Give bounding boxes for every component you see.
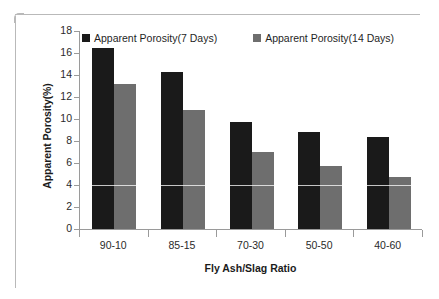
bar[interactable] bbox=[230, 122, 252, 229]
legend-swatch-icon bbox=[82, 34, 90, 42]
bar[interactable] bbox=[367, 137, 389, 229]
legend-swatch-icon bbox=[253, 34, 261, 42]
chart-legend: Apparent Porosity(7 Days) Apparent Poros… bbox=[82, 30, 394, 46]
x-axis-tick-marks bbox=[0, 230, 439, 238]
gridline-artifact bbox=[80, 185, 420, 186]
bar[interactable] bbox=[161, 72, 183, 229]
y-axis-tick-label: 14 bbox=[50, 69, 72, 80]
legend-label-14-days: Apparent Porosity(14 Days) bbox=[265, 33, 394, 44]
legend-label-7-days: Apparent Porosity(7 Days) bbox=[94, 33, 217, 44]
bar-group bbox=[92, 31, 136, 229]
y-axis-tick-label: 6 bbox=[50, 157, 72, 168]
bars-layer bbox=[79, 31, 422, 229]
y-axis-tick-label: 10 bbox=[50, 113, 72, 124]
bar[interactable] bbox=[114, 84, 136, 229]
x-axis-tick-label: 70-30 bbox=[216, 240, 285, 251]
y-axis-tick-label: 8 bbox=[50, 135, 72, 146]
bar-group bbox=[298, 31, 342, 229]
legend-item-14-days[interactable]: Apparent Porosity(14 Days) bbox=[253, 33, 394, 44]
x-axis-tick bbox=[79, 230, 80, 237]
x-axis-tick-label: 90-10 bbox=[79, 240, 148, 251]
bar[interactable] bbox=[320, 166, 342, 229]
legend-item-7-days[interactable]: Apparent Porosity(7 Days) bbox=[82, 33, 217, 44]
y-axis-tick-labels: 181614121086420 bbox=[48, 0, 72, 299]
y-axis-tick-label: 18 bbox=[50, 25, 72, 36]
x-axis-tick bbox=[148, 230, 149, 237]
bar-group bbox=[161, 31, 205, 229]
y-axis-tick-label: 12 bbox=[50, 91, 72, 102]
x-axis-tick-label: 50-50 bbox=[285, 240, 354, 251]
x-axis-tick-label: 40-60 bbox=[353, 240, 422, 251]
x-axis-tick-labels: 90-1085-1570-3050-5040-60 bbox=[79, 240, 422, 254]
bar[interactable] bbox=[92, 48, 114, 230]
bar-group bbox=[230, 31, 274, 229]
x-axis-tick bbox=[285, 230, 286, 237]
y-axis-tick-label: 4 bbox=[50, 179, 72, 190]
bar-group bbox=[367, 31, 411, 229]
x-axis-title: Fly Ash/Slag Ratio bbox=[79, 262, 422, 274]
x-axis-tick-label: 85-15 bbox=[148, 240, 217, 251]
x-axis-tick bbox=[216, 230, 217, 237]
bar[interactable] bbox=[298, 132, 320, 229]
x-axis-tick bbox=[422, 230, 423, 237]
bar[interactable] bbox=[252, 152, 274, 229]
bar-chart: Apparent Porosity(%) 181614121086420 App… bbox=[0, 0, 439, 299]
y-axis-tick-label: 2 bbox=[50, 201, 72, 212]
x-axis-tick bbox=[353, 230, 354, 237]
y-axis-tick-label: 16 bbox=[50, 47, 72, 58]
bar[interactable] bbox=[183, 110, 205, 229]
